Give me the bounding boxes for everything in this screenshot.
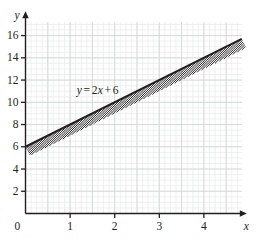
equation-constant: 6	[113, 84, 119, 96]
origin-label: 0	[15, 221, 21, 233]
x-tick-label: 1	[58, 221, 82, 233]
y-axis-label: y	[15, 10, 20, 22]
equation-annotation: y=2x+6	[77, 85, 119, 97]
y-tick-label: 14	[0, 52, 19, 64]
x-tick-label: 2	[103, 221, 127, 233]
equation-equals: =	[82, 84, 92, 96]
x-tick-label: 3	[147, 221, 171, 233]
grid-minor	[26, 22, 242, 213]
y-tick-label: 16	[0, 30, 19, 42]
equation-plus: +	[103, 84, 113, 96]
y-tick-label: 8	[0, 119, 19, 131]
hatch-shading	[0, 2, 257, 184]
y-tick-label: 6	[0, 141, 19, 153]
axis-ticks	[21, 36, 204, 218]
y-tick-label: 12	[0, 75, 19, 87]
y-tick-label: 10	[0, 97, 19, 109]
y-tick-label: 2	[0, 186, 19, 198]
graph-figure: 1234246810121416 y=2x+6 x y 0	[0, 0, 257, 238]
plot-canvas	[0, 0, 257, 238]
x-tick-label: 4	[192, 221, 216, 233]
y-tick-label: 4	[0, 164, 19, 176]
x-axis-label: x	[244, 221, 249, 233]
